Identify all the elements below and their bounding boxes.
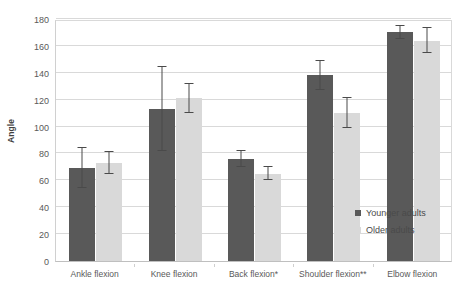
bar[interactable] [228,159,254,261]
y-axis-tick-label: 60 [39,176,49,186]
legend-swatch-icon [355,227,361,233]
y-axis-tick-label: 80 [39,149,49,159]
y-axis-title: Angle [2,0,20,262]
error-bar-cap [105,173,114,174]
legend-swatch-icon [355,210,361,216]
error-bar-cap [105,151,114,152]
legend-item-label: Older adults [366,225,415,235]
error-bar-cap [157,150,166,151]
error-bar [188,84,189,114]
error-bar-cap [78,147,87,148]
error-bar-cap [184,112,193,113]
error-bar [240,151,241,167]
x-axis-tick-mark [293,264,294,267]
y-axis-tick-label: 20 [39,230,49,240]
error-bar-cap [316,89,325,90]
error-bar [267,167,268,180]
bar-group [56,21,135,261]
bar[interactable] [176,98,202,261]
legend-item[interactable]: Younger adults [355,205,455,220]
bar-group [215,21,294,261]
error-bar [320,61,321,91]
y-axis-tick-label: 40 [39,203,49,213]
bar-column[interactable] [307,19,333,261]
bar-column[interactable] [176,19,202,261]
y-axis-tick-label: 160 [34,42,49,52]
bar-column[interactable] [69,19,95,261]
x-axis-tick-mark [214,264,215,267]
error-bar-cap [263,166,272,167]
error-bar [161,67,162,150]
y-axis-tick-labels: 020406080100120140160180 [20,0,52,290]
error-bar-cap [236,150,245,151]
error-bar-cap [184,83,193,84]
error-bar-cap [422,27,431,28]
error-bar-cap [395,25,404,26]
error-bar-cap [316,60,325,61]
error-bar [426,28,427,52]
error-bar [347,98,348,128]
bar-column[interactable] [255,19,281,261]
error-bar-cap [236,166,245,167]
bar-column[interactable] [149,19,175,261]
y-axis-tick-label: 0 [44,257,49,267]
bar-column[interactable] [228,19,254,261]
bar-column[interactable] [96,19,122,261]
x-axis-tick-label: Shoulder flexion** [299,269,367,279]
chart-legend: Younger adultsOlder adults [355,205,455,239]
y-axis-tick-label: 120 [34,96,49,106]
x-axis-tick-label: Knee flexion [151,269,198,279]
error-bar [82,148,83,188]
bar-chart: Angle 020406080100120140160180 Ankle fle… [0,0,463,290]
error-bar-cap [422,52,431,53]
x-axis-tick-labels: Ankle flexionKnee flexionBack flexion*Sh… [55,264,452,288]
x-axis-tick-label: Back flexion* [229,269,278,279]
x-axis-tick-mark [373,264,374,267]
y-axis-tick-label: 140 [34,69,49,79]
legend-item-label: Younger adults [366,208,426,218]
error-bar-cap [78,187,87,188]
y-axis-title-label: Angle [6,119,16,143]
error-bar-cap [157,66,166,67]
bar[interactable] [307,75,333,261]
error-bar-cap [395,38,404,39]
legend-item[interactable]: Older adults [355,222,455,237]
error-bar [109,152,110,174]
bar[interactable] [255,174,281,261]
error-bar [399,26,400,39]
error-bar-cap [263,179,272,180]
error-bar-cap [343,97,352,98]
y-axis-tick-label: 180 [34,15,49,25]
x-axis-tick-label: Elbow flexion [387,269,437,279]
bar[interactable] [96,163,122,261]
y-axis-tick-label: 100 [34,123,49,133]
bar-group [135,21,214,261]
x-axis-tick-mark [134,264,135,267]
x-axis-tick-label: Ankle flexion [71,269,119,279]
error-bar-cap [343,127,352,128]
